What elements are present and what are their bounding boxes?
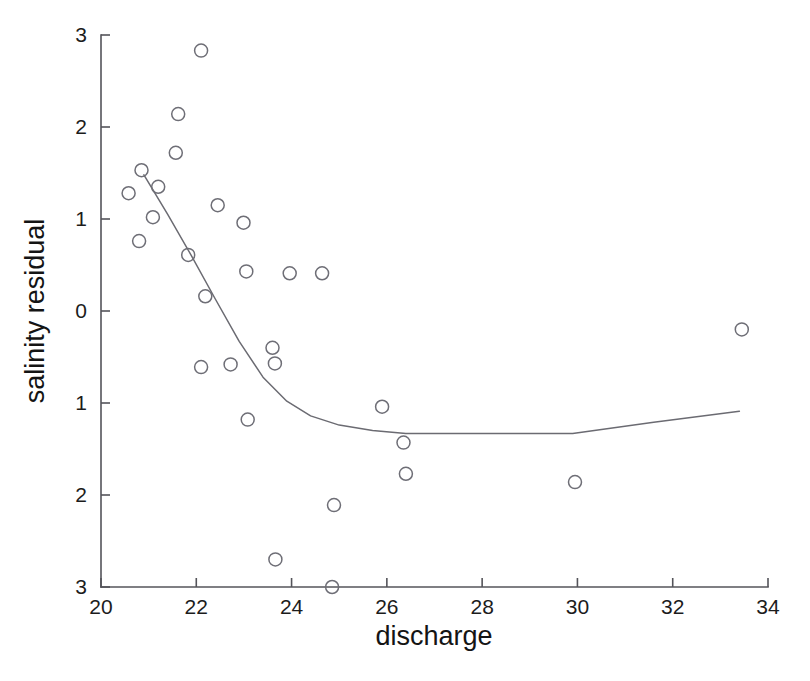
y-axis-tick-labels: 3210123 — [75, 23, 87, 598]
x-tick-label: 34 — [756, 595, 780, 618]
data-points — [122, 44, 748, 593]
data-point-marker — [152, 180, 165, 193]
y-tick-label: 3 — [75, 575, 87, 598]
data-point-marker — [316, 267, 329, 280]
data-point-marker — [146, 211, 159, 224]
data-point-marker — [399, 467, 412, 480]
y-tick-label: 0 — [75, 299, 87, 322]
data-point-marker — [268, 357, 281, 370]
x-tick-label: 20 — [89, 595, 112, 618]
data-point-marker — [195, 44, 208, 57]
y-axis-ticks — [101, 35, 110, 587]
data-point-marker — [211, 199, 224, 212]
x-tick-label: 22 — [185, 595, 208, 618]
data-point-marker — [266, 341, 279, 354]
data-point-marker — [133, 235, 146, 248]
x-axis-ticks — [101, 578, 768, 587]
x-tick-label: 24 — [280, 595, 304, 618]
y-tick-label: 2 — [75, 115, 87, 138]
x-axis-tick-labels: 2022242628303234 — [89, 595, 780, 618]
scatter-plot-figure: 2022242628303234 3210123 discharge salin… — [0, 0, 810, 681]
y-tick-label: 2 — [75, 483, 87, 506]
data-point-marker — [397, 436, 410, 449]
y-tick-label: 1 — [75, 391, 87, 414]
axis-lines — [101, 35, 768, 587]
data-point-marker — [269, 553, 282, 566]
data-point-marker — [735, 323, 748, 336]
y-tick-label: 1 — [75, 207, 87, 230]
y-tick-label: 3 — [75, 23, 87, 46]
fitted-curve — [144, 175, 740, 434]
data-point-marker — [569, 476, 582, 489]
data-point-marker — [199, 290, 212, 303]
data-point-marker — [169, 146, 182, 159]
data-point-marker — [240, 265, 253, 278]
x-tick-label: 26 — [375, 595, 398, 618]
y-axis-label: salinity residual — [20, 219, 50, 404]
data-point-marker — [328, 499, 341, 512]
data-point-marker — [224, 358, 237, 371]
data-point-marker — [283, 267, 296, 280]
x-tick-label: 30 — [566, 595, 589, 618]
data-point-marker — [122, 187, 135, 200]
data-point-marker — [376, 400, 389, 413]
x-axis-label: discharge — [375, 621, 492, 651]
x-tick-label: 28 — [470, 595, 493, 618]
x-tick-label: 32 — [661, 595, 684, 618]
data-point-marker — [241, 413, 254, 426]
data-point-marker — [195, 361, 208, 374]
data-point-marker — [237, 216, 250, 229]
data-point-marker — [135, 164, 148, 177]
chart-canvas: 2022242628303234 3210123 discharge salin… — [0, 0, 810, 681]
data-point-marker — [172, 108, 185, 121]
